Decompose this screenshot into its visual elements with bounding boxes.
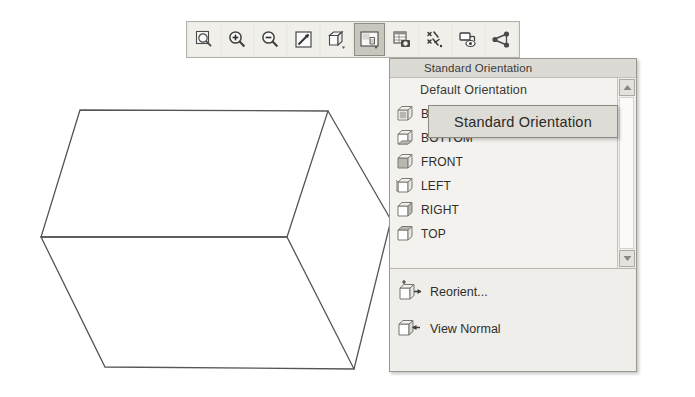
cube-top-icon [395, 224, 416, 244]
list-item-label: FRONT [421, 155, 463, 169]
magnifier-plus-icon [227, 29, 248, 50]
rotate-view-button[interactable] [321, 23, 352, 56]
list-item-default-orientation[interactable]: Default Orientation [390, 78, 617, 102]
list-item-label: LEFT [421, 179, 451, 193]
node-tree-icon [491, 29, 512, 50]
list-item-left[interactable]: LEFT [390, 174, 617, 198]
cube-right-icon [395, 200, 416, 220]
cube-front-icon [395, 152, 416, 172]
list-item-label: TOP [421, 227, 446, 241]
cube-icon [326, 29, 347, 50]
zoom-to-fit-button[interactable] [189, 23, 220, 56]
tooltip-text: Standard Orientation [454, 114, 592, 130]
screen-eye-icon [458, 29, 479, 50]
section-view-button[interactable] [486, 23, 517, 56]
command-view-normal[interactable]: View Normal [390, 310, 636, 347]
magnifier-box-icon [194, 29, 215, 50]
cube-left-icon [395, 176, 416, 196]
hide-show-button[interactable] [420, 23, 451, 56]
scroll-up-arrow-icon[interactable] [619, 79, 635, 96]
panel-camera-icon [392, 29, 413, 50]
dropdown-commands: Reorient... View Normal [390, 269, 636, 347]
list-item-right[interactable]: RIGHT [390, 198, 617, 222]
orientation-icon [359, 29, 380, 50]
list-item-label: RIGHT [421, 203, 459, 217]
command-label: View Normal [430, 322, 501, 336]
command-label: Reorient... [430, 285, 488, 299]
standard-orientation-button[interactable] [354, 23, 385, 56]
cube-bottom-icon [395, 128, 416, 148]
zoom-out-button[interactable] [255, 23, 286, 56]
display-style-button[interactable] [387, 23, 418, 56]
zoom-area-button[interactable] [288, 23, 319, 56]
list-item-label: Default Orientation [420, 83, 527, 97]
tooltip: Standard Orientation [428, 105, 618, 138]
view-toolbar [186, 21, 520, 58]
dropdown-header: Standard Orientation [390, 59, 636, 78]
view-normal-cube-icon [395, 315, 425, 343]
list-item-top[interactable]: TOP [390, 222, 617, 246]
dropdown-scrollbar[interactable] [617, 78, 636, 268]
zoom-in-button[interactable] [222, 23, 253, 56]
view-manager-button[interactable] [453, 23, 484, 56]
scrollbar-track[interactable] [619, 97, 634, 249]
reorient-cube-icon [395, 278, 425, 306]
cube-back-icon [395, 104, 416, 124]
scroll-down-arrow-icon[interactable] [619, 250, 635, 267]
list-item-front[interactable]: FRONT [390, 150, 617, 174]
stars-icon [425, 29, 446, 50]
command-reorient[interactable]: Reorient... [390, 273, 636, 310]
dropdown-header-label: Standard Orientation [424, 62, 532, 74]
magnifier-minus-icon [260, 29, 281, 50]
application-window: Standard Orientation Default Orientation [0, 0, 695, 397]
square-diagonal-icon [293, 29, 314, 50]
